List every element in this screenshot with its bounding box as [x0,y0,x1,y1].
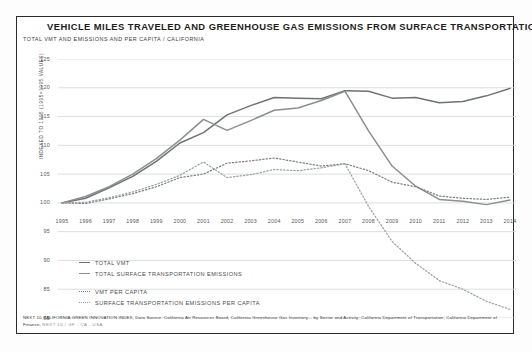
series-line-1 [62,91,510,204]
source-tag: NEXT 10 / GF - CA - USA [42,322,103,327]
figure-subtitle: TOTAL VMT AND EMISSIONS AND PER CAPITA /… [23,36,204,42]
x-axis-tick: 2009 [386,218,399,224]
x-axis-tick: 1997 [103,218,116,224]
legend-label: VMT PER CAPITA [95,289,147,295]
y-axis-tick: 105 [24,171,50,177]
x-axis-tick: 2005 [291,218,304,224]
legend-swatch-icon [79,302,90,303]
x-axis-tick: 2012 [456,218,469,224]
x-axis-tick: 2010 [409,218,422,224]
x-axis-tick: 1999 [150,218,163,224]
legend-swatch-icon [79,262,90,263]
legend-spacer [79,279,379,286]
y-axis-tick: 85 [24,286,50,292]
screenshot-page: VEHICLE MILES TRAVELED AND GREENHOUSE GA… [0,0,532,352]
x-axis-tick: 2004 [268,218,281,224]
y-axis-tick: 120 [24,84,50,90]
source-line-1: NEXT 10 CALIFORNIA GREEN INNOVATION INDE… [23,315,445,320]
figure-panel: VEHICLE MILES TRAVELED AND GREENHOUSE GA… [16,16,514,334]
legend-swatch-icon [79,273,90,274]
x-axis-tick: 2000 [173,218,186,224]
x-axis-tick: 2014 [504,218,517,224]
source-note: NEXT 10 CALIFORNIA GREEN INNOVATION INDE… [23,315,509,328]
x-axis-tick: 1998 [126,218,139,224]
x-axis-tick: 2002 [221,218,234,224]
x-axis-tick-group: 1995199619971998199920002001200220032004… [58,218,516,232]
x-axis-tick: 2003 [244,218,257,224]
legend-item[interactable]: SURFACE TRANSPORTATION EMISSIONS PER CAP… [79,297,379,308]
x-axis-tick: 1995 [56,218,69,224]
chart-legend: TOTAL VMTTOTAL SURFACE TRANSPORTATION EM… [79,257,379,308]
x-axis-tick: 2008 [362,218,375,224]
x-axis-tick: 2013 [480,218,493,224]
series-line-2 [62,158,510,203]
y-axis: INDEXED TO 1995 (1995=1995 VALUES) 12512… [17,59,50,318]
y-axis-tick: 115 [24,113,50,119]
y-axis-tick: 95 [24,228,50,234]
figure-title: VEHICLE MILES TRAVELED AND GREENHOUSE GA… [17,21,515,32]
x-axis-tick: 2011 [433,218,445,224]
x-axis-tick: 2006 [315,218,328,224]
legend-swatch-icon [79,291,90,292]
legend-label: TOTAL SURFACE TRANSPORTATION EMISSIONS [95,271,242,277]
legend-label: SURFACE TRANSPORTATION EMISSIONS PER CAP… [95,300,260,306]
x-axis-tick: 2007 [339,218,352,224]
legend-item[interactable]: TOTAL VMT [79,257,379,268]
y-axis-tick: 110 [24,142,50,148]
x-axis-tick: 1996 [79,218,92,224]
legend-item[interactable]: VMT PER CAPITA [79,286,379,297]
legend-item[interactable]: TOTAL SURFACE TRANSPORTATION EMISSIONS [79,268,379,279]
x-axis-tick: 2001 [197,218,210,224]
y-axis-tick: 90 [24,257,50,263]
legend-label: TOTAL VMT [95,260,130,266]
y-axis-tick: 125 [24,56,50,62]
y-axis-tick: 100 [24,199,50,205]
